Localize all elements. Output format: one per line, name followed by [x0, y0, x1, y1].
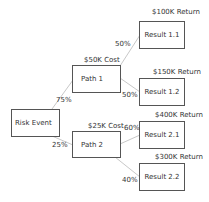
node-risk-event: Risk Event: [11, 109, 60, 137]
node-label: Result 1.1: [145, 31, 180, 39]
edge-label-path1-result12: 50%: [122, 91, 138, 99]
node-result-2-2: Result 2.2: [139, 163, 185, 191]
result22-return-label: $300K Return: [155, 153, 203, 161]
edge-label-path1-result11: 50%: [115, 40, 131, 48]
edge-label-root-path1: 75%: [56, 96, 72, 104]
result12-return-label: $150K Return: [153, 68, 201, 76]
edge-root-path1: [52, 80, 73, 109]
node-label: Risk Event: [15, 119, 52, 127]
node-result-2-1: Result 2.1: [139, 121, 185, 149]
node-path-2: Path 2: [72, 131, 121, 158]
node-result-1-1: Result 1.1: [139, 21, 185, 49]
result21-return-label: $400K Return: [155, 111, 203, 119]
node-label: Path 1: [81, 75, 103, 83]
edge-path2-result21: [120, 135, 140, 144]
node-label: Result 2.2: [145, 173, 180, 181]
node-label: Result 2.1: [145, 131, 180, 139]
result11-return-label: $100K Return: [152, 8, 200, 16]
edge-path2-result22: [115, 157, 140, 177]
edge-label-path2-result22: 40%: [122, 176, 138, 184]
edge-label-path2-result21: 60%: [124, 124, 140, 132]
node-label: Path 2: [81, 141, 103, 149]
node-path-1: Path 1: [72, 65, 121, 93]
node-result-1-2: Result 1.2: [139, 78, 185, 106]
node-label: Result 1.2: [145, 88, 180, 96]
path2-cost-label: $25K Cost: [88, 122, 124, 130]
edge-path1-result12: [120, 78, 140, 92]
edge-label-root-path2: 25%: [52, 141, 68, 149]
path1-cost-label: $50K Cost: [84, 56, 120, 64]
